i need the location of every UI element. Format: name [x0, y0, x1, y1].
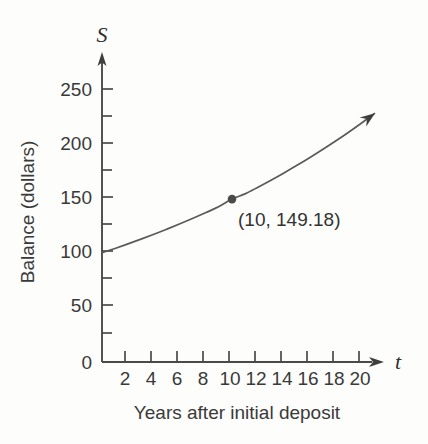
x-tick-label-20: 20 — [349, 368, 370, 389]
chart-figure: 250 200 150 100 50 0 S Balance (dollars) — [0, 0, 428, 444]
x-tick-label-12: 12 — [245, 368, 266, 389]
y-axis-major-ticks — [102, 89, 113, 362]
y-tick-label-150: 150 — [60, 187, 92, 208]
y-tick-label-100: 100 — [60, 241, 92, 262]
x-tick-label-14: 14 — [271, 368, 293, 389]
x-tick-label-8: 8 — [198, 368, 209, 389]
data-series-balance — [102, 113, 375, 253]
x-tick-label-16: 16 — [297, 368, 318, 389]
y-axis-group — [98, 52, 107, 362]
x-tick-label-4: 4 — [146, 368, 157, 389]
x-axis-title: Years after initial deposit — [134, 402, 341, 423]
x-tick-label-10: 10 — [219, 368, 240, 389]
x-axis-group — [102, 357, 384, 367]
x-axis-variable-label: t — [395, 349, 402, 374]
y-tick-label-0: 0 — [81, 352, 92, 373]
y-axis-minor-ticks — [102, 116, 112, 333]
data-point-marker — [228, 195, 237, 204]
data-point-label: (10, 149.18) — [238, 209, 340, 230]
y-tick-label-50: 50 — [71, 295, 92, 316]
y-axis-title: Balance (dollars) — [17, 141, 38, 284]
y-tick-label-200: 200 — [60, 133, 92, 154]
x-tick-label-6: 6 — [172, 368, 183, 389]
exponential-growth-curve — [102, 113, 375, 253]
curve-arrowhead — [360, 113, 375, 126]
x-tick-label-2: 2 — [120, 368, 131, 389]
x-axis-ticks — [125, 351, 359, 362]
y-tick-label-250: 250 — [60, 79, 92, 100]
chart-canvas: 250 200 150 100 50 0 S Balance (dollars) — [0, 0, 428, 444]
y-axis-variable-label: S — [97, 22, 108, 47]
x-tick-label-18: 18 — [323, 368, 344, 389]
